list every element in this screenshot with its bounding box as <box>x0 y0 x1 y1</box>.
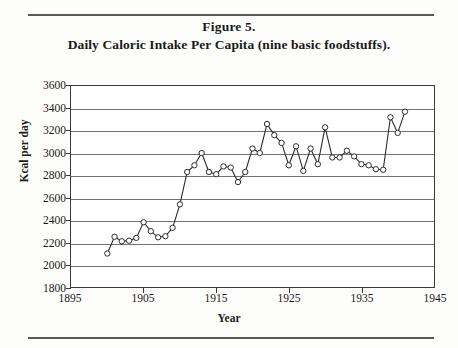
data-point <box>272 132 277 137</box>
x-tick-label-1945: 1945 <box>424 292 447 304</box>
data-point <box>279 140 284 145</box>
data-point <box>359 161 364 166</box>
data-point <box>351 154 356 159</box>
y-tick-label-3000: 3000 <box>43 147 66 159</box>
data-point <box>264 121 269 126</box>
y-tick-2200 <box>66 243 71 244</box>
x-tick-1935 <box>362 288 363 293</box>
y-tick-3600 <box>66 85 71 86</box>
x-tick-label-1915: 1915 <box>205 292 228 304</box>
data-point <box>148 228 153 233</box>
y-tick-3200 <box>66 130 71 131</box>
x-tick-label-1905: 1905 <box>132 292 155 304</box>
data-point <box>322 125 327 130</box>
data-point <box>380 167 385 172</box>
data-point <box>315 161 320 166</box>
data-point <box>112 234 117 239</box>
figure-caption: Figure 5. Daily Caloric Intake Per Capit… <box>0 18 458 54</box>
y-tick-2800 <box>66 175 71 176</box>
top-rule <box>28 14 434 16</box>
y-tick-3400 <box>66 108 71 109</box>
y-tick-label-3600: 3600 <box>43 79 66 91</box>
data-point <box>221 164 226 169</box>
data-point <box>243 169 248 174</box>
data-point <box>155 235 160 240</box>
y-tick-label-2200: 2200 <box>43 237 66 249</box>
x-axis-labels: 189519051915192519351945 <box>0 292 458 310</box>
y-tick-2600 <box>66 198 71 199</box>
data-point <box>373 167 378 172</box>
y-tick-label-2000: 2000 <box>43 259 66 271</box>
x-axis-title: Year <box>0 312 458 324</box>
x-tick-1925 <box>289 288 290 293</box>
y-axis-title: Kcal per day <box>18 81 30 221</box>
x-tick-label-1895: 1895 <box>59 292 82 304</box>
series-markers <box>105 109 408 256</box>
data-point <box>119 239 124 244</box>
data-point <box>126 238 131 243</box>
data-point <box>337 155 342 160</box>
data-point <box>134 235 139 240</box>
figure-number: Figure 5. <box>0 18 458 36</box>
x-tick-label-1925: 1925 <box>278 292 301 304</box>
data-point <box>228 165 233 170</box>
data-point <box>330 155 335 160</box>
data-point <box>308 146 313 151</box>
x-tick-label-1935: 1935 <box>351 292 374 304</box>
data-point <box>388 115 393 120</box>
figure-title: Daily Caloric Intake Per Capita (nine ba… <box>0 36 458 54</box>
y-tick-label-2400: 2400 <box>43 214 66 226</box>
data-point <box>293 144 298 149</box>
data-point <box>163 234 168 239</box>
data-point <box>395 130 400 135</box>
data-point <box>105 251 110 256</box>
x-tick-1915 <box>216 288 217 293</box>
data-point <box>286 163 291 168</box>
data-point <box>206 169 211 174</box>
data-point <box>199 150 204 155</box>
y-tick-3000 <box>66 153 71 154</box>
data-point <box>301 168 306 173</box>
data-point <box>177 202 182 207</box>
y-tick-2000 <box>66 265 71 266</box>
series-layer <box>71 86 434 287</box>
y-tick-label-3400: 3400 <box>43 102 66 114</box>
data-point <box>141 220 146 225</box>
plot-area <box>70 85 435 288</box>
data-point <box>402 109 407 114</box>
data-point <box>184 169 189 174</box>
data-point <box>344 148 349 153</box>
y-tick-1800 <box>66 288 71 289</box>
y-tick-2400 <box>66 220 71 221</box>
data-point <box>170 225 175 230</box>
y-tick-label-3200: 3200 <box>43 124 66 136</box>
x-tick-1905 <box>143 288 144 293</box>
data-point <box>192 163 197 168</box>
data-point <box>214 172 219 177</box>
figure-page: Figure 5. Daily Caloric Intake Per Capit… <box>0 0 458 348</box>
data-point <box>257 150 262 155</box>
data-point <box>250 146 255 151</box>
y-tick-label-2600: 2600 <box>43 192 66 204</box>
bottom-rule <box>28 337 434 339</box>
data-point <box>366 163 371 168</box>
y-tick-label-2800: 2800 <box>43 169 66 181</box>
data-point <box>235 179 240 184</box>
